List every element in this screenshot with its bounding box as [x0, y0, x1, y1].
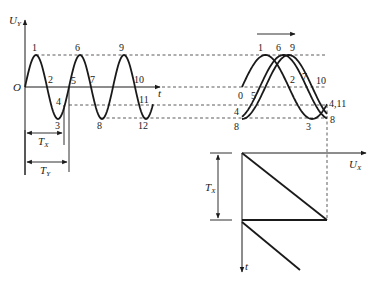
- time-axis-label: t: [158, 87, 162, 99]
- sweep-tx-label: TX: [205, 181, 216, 195]
- trace-label-6: 6: [276, 42, 281, 53]
- point-label-9: 9: [119, 42, 124, 53]
- y-axis-label: UY: [9, 14, 22, 28]
- point-label-7: 7: [90, 74, 95, 85]
- trace-label-5: 5: [251, 90, 256, 101]
- point-label-1: 1: [32, 42, 37, 53]
- trace-label-1: 1: [258, 42, 263, 53]
- point-label-5: 5: [71, 75, 76, 86]
- trace-label-10: 10: [316, 75, 326, 86]
- point-label-3: 3: [55, 120, 60, 131]
- trace-label-9: 9: [290, 42, 295, 53]
- sweep-t-label: t: [245, 260, 249, 272]
- trace-label-4-11: 4,11: [329, 98, 346, 109]
- trace-label-2: 2: [290, 74, 295, 85]
- oscilloscope-diagram: UY t O 1 2 3 4 5 6 7 8 9 10 11 12 TX TY …: [0, 0, 380, 282]
- trace-label-4: 4: [234, 106, 239, 117]
- point-label-8: 8: [97, 120, 102, 131]
- sweep-ramp-1: [242, 153, 327, 220]
- tx-period-label: TX: [38, 135, 49, 149]
- point-label-2: 2: [48, 74, 53, 85]
- point-label-10: 10: [134, 74, 144, 85]
- trace-label-7: 7: [302, 71, 307, 82]
- trace-label-8-left: 8: [234, 121, 239, 132]
- trace-label-0: 0: [238, 90, 243, 101]
- point-label-6: 6: [75, 42, 80, 53]
- point-label-11: 11: [139, 94, 149, 105]
- point-label-4: 4: [56, 96, 61, 107]
- trace-label-8-right: 8: [330, 114, 335, 125]
- sweep-ramp-2: [242, 222, 300, 270]
- trace-label-3: 3: [306, 121, 311, 132]
- origin-label: O: [13, 81, 21, 93]
- ty-period-label: TY: [40, 164, 51, 178]
- sweep-ux-label: UX: [349, 158, 362, 172]
- point-label-12: 12: [138, 120, 148, 131]
